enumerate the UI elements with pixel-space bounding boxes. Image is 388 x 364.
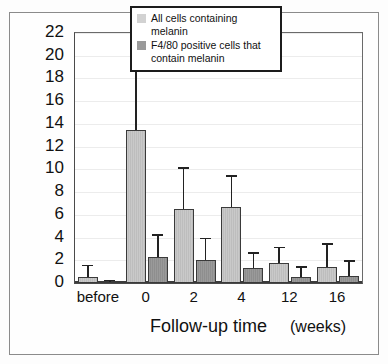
y-axis-tick-label: 12 (14, 137, 64, 154)
bar-12-series1 (269, 263, 289, 283)
error-bar-line (157, 234, 159, 257)
y-axis-tick-label: 14 (14, 114, 64, 131)
legend-label-all-cells: All cells containing melanin (151, 12, 275, 38)
y-axis-tick-label: 4 (14, 228, 64, 245)
legend-item-all-cells: All cells containing melanin (137, 12, 275, 38)
error-bar-cap (248, 252, 259, 254)
y-axis-tick-label: 10 (14, 159, 64, 176)
bar-2-series2 (196, 260, 216, 283)
error-bar-line (183, 167, 185, 209)
error-bar-cap (104, 280, 115, 282)
y-axis-tick-label: 8 (14, 182, 64, 199)
error-bar-cap (82, 265, 93, 267)
y-axis-tick-label: 22 (14, 23, 64, 40)
y-axis-tick-label: 6 (14, 205, 64, 222)
legend-label-f480-line1: F4/80 positive cells that (151, 39, 261, 52)
error-bar-cap (178, 167, 189, 169)
error-bar-cap (296, 266, 307, 268)
error-bar-cap (274, 247, 285, 249)
error-bar-line (135, 67, 137, 130)
error-bar-line (278, 247, 280, 263)
bar-4-series2 (243, 268, 263, 283)
bar-2-series1 (174, 209, 194, 283)
error-bar-line (348, 260, 350, 276)
gridline (75, 147, 362, 148)
gridline (75, 101, 362, 102)
gridline (75, 169, 362, 170)
error-bar-line (87, 265, 89, 278)
bar-16-series2 (339, 276, 359, 283)
gridline (75, 124, 362, 125)
y-axis-tick-label: 0 (14, 273, 64, 290)
error-bar-cap (322, 243, 333, 245)
x-axis-tick-label: 16 (302, 288, 372, 305)
bar-before-series1 (78, 277, 98, 283)
gridline (75, 260, 362, 261)
bar-12-series2 (291, 277, 311, 283)
gridline (75, 215, 362, 216)
legend-item-f480: F4/80 positive cells that (137, 39, 275, 52)
error-bar-cap (200, 238, 211, 240)
gridline (75, 78, 362, 79)
error-bar-line (300, 266, 302, 277)
x-axis-label: Follow-up time (150, 316, 267, 337)
bar-0-series2 (148, 257, 168, 283)
gridline (75, 192, 362, 193)
y-axis-tick-label: 18 (14, 68, 64, 85)
legend-label-f480-line2: contain melanin (151, 52, 275, 65)
bar-16-series1 (317, 267, 337, 283)
error-bar-cap (226, 175, 237, 177)
chart-legend: All cells containing melanin F4/80 posit… (130, 6, 282, 72)
error-bar-line (326, 243, 328, 267)
legend-swatch-light-icon (137, 14, 146, 23)
y-axis-tick-label: 2 (14, 250, 64, 267)
error-bar-line (231, 175, 233, 207)
y-axis-tick-label: 20 (14, 46, 64, 63)
y-axis-tick-label: 16 (14, 91, 64, 108)
error-bar-line (205, 238, 207, 261)
error-bar-cap (344, 260, 355, 262)
gridline (75, 238, 362, 239)
error-bar-line (253, 252, 255, 268)
error-bar-cap (152, 234, 163, 236)
figure-container: Number of cells per field All cells cont… (0, 0, 388, 364)
legend-swatch-dark-icon (137, 41, 146, 50)
bar-0-series1 (126, 130, 146, 283)
bar-4-series1 (221, 207, 241, 283)
x-axis-units: (weeks) (290, 318, 346, 336)
